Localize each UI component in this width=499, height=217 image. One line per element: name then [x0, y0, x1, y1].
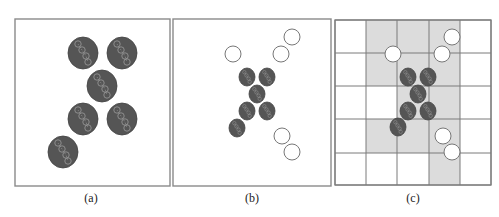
molecule-particle: [68, 103, 98, 135]
shaded-cell: [397, 20, 429, 53]
molecule-particle: [420, 68, 436, 86]
panel-b: [173, 19, 331, 186]
open-circle: [284, 29, 300, 45]
molecule-particle: [410, 85, 426, 103]
open-circle: [385, 46, 401, 62]
caption-a: (a): [71, 191, 111, 205]
panel-frame: [173, 19, 331, 186]
open-circle: [444, 29, 460, 45]
molecule-particle: [390, 118, 406, 136]
molecule-particle: [400, 68, 416, 86]
caption-c: (c): [393, 191, 433, 205]
molecule-particle: [87, 70, 117, 102]
open-circle: [284, 144, 300, 160]
open-circle: [444, 144, 460, 160]
open-circle: [434, 46, 450, 62]
open-circle: [274, 128, 290, 144]
molecule-particle: [107, 37, 137, 69]
molecule-particle: [259, 68, 275, 86]
molecule-particle: [420, 102, 436, 120]
molecule-particle: [48, 136, 78, 168]
molecule-particle: [239, 68, 255, 86]
caption-b: (b): [232, 191, 272, 205]
panel-c: [335, 20, 491, 185]
panel-a: [15, 19, 170, 186]
open-circle: [225, 46, 241, 62]
molecule-particle: [259, 102, 275, 120]
molecule-particle: [249, 85, 265, 103]
molecule-particle: [68, 37, 98, 69]
molecule-particle: [229, 119, 245, 137]
open-circle: [273, 46, 289, 62]
open-circle: [435, 128, 451, 144]
figure-canvas: [0, 0, 499, 217]
molecule-particle: [107, 103, 137, 135]
molecule-particle: [400, 102, 416, 120]
molecule-particle: [239, 102, 255, 120]
